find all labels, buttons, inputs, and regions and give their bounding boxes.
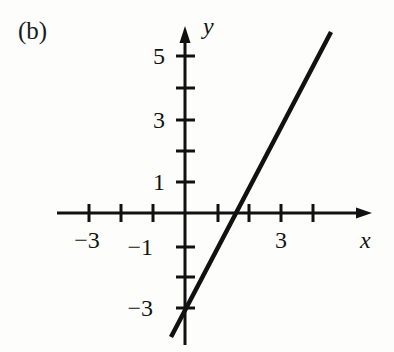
x-tick-label--3: −3 <box>64 228 110 252</box>
y-tick-label-1: 1 <box>125 170 165 194</box>
y-tick-label-5: 5 <box>125 44 165 68</box>
x-axis-label: x <box>360 228 371 252</box>
y-axis-label: y <box>203 14 214 38</box>
y-tick-label--1: −1 <box>113 235 153 259</box>
y-tick-label-3: 3 <box>125 108 165 132</box>
coordinate-plane <box>0 0 394 352</box>
x-tick-label-3: 3 <box>258 228 304 252</box>
x-axis-arrowhead <box>356 208 372 219</box>
plotted-line <box>171 32 331 337</box>
graph-figure: (b) <box>0 0 394 352</box>
y-tick-label--3: −3 <box>113 296 153 320</box>
y-axis-arrowhead <box>180 26 191 43</box>
